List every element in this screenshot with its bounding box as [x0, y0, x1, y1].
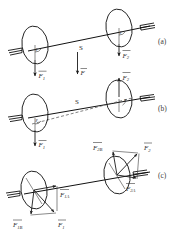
- panel-b-F2-text: F2: [122, 74, 130, 83]
- panel-c-vector-F2A-label: F2A: [125, 184, 136, 194]
- panel-c-right-hatch-icon: [133, 170, 148, 177]
- panel-c-F1-text: F1: [57, 221, 65, 230]
- panel-b: ε ε F1 F2 S (b): [8, 73, 167, 150]
- panel-c-F1B-text: F1B: [12, 221, 23, 230]
- panel-a-separation-label: S: [79, 44, 83, 52]
- panel-c-right-parallelogram-side-1: [113, 151, 139, 153]
- panel-c-vector-F1-label: F1: [57, 220, 66, 230]
- panel-a-F1-text: F1: [38, 72, 46, 81]
- panel-a-axis-line: [28, 26, 150, 51]
- panel-c-F2B-text: F2B: [92, 144, 103, 153]
- panel-c-caption: (c): [158, 171, 167, 180]
- panel-c-F2A-text: F2A: [125, 185, 136, 194]
- panel-c-vector-F2B-arrow: [113, 152, 117, 175]
- panel-c-left-parallelogram-side-2: [31, 213, 57, 215]
- panel-a: ε ε F1 F2 S F: [8, 7, 167, 80]
- panel-a-vector-F2-label: F2: [122, 51, 131, 61]
- panel-b-vector-F2-label: F2: [122, 73, 131, 83]
- figure-canvas: ε ε F1 F2 S F: [0, 0, 180, 241]
- panel-b-vector-F1-label: F1: [38, 141, 47, 150]
- panel-c-F2-text: F2: [143, 144, 151, 153]
- panel-b-dashed-reference: [32, 98, 132, 124]
- panel-a-caption: (a): [158, 37, 167, 46]
- panel-b-F1-text: F1: [38, 141, 46, 150]
- panel-a-F2-text: F2: [122, 52, 130, 61]
- physics-figure: ε ε F1 F2 S F: [0, 0, 180, 241]
- panel-c: F1A F1B F1 F2B: [6, 143, 167, 230]
- panel-c-right-parallelogram-side-2: [137, 154, 139, 180]
- panel-c-vector-F2-label: F2: [143, 143, 152, 153]
- panel-a-F-text: F: [80, 69, 86, 77]
- panel-b-right-hatch-icon: [140, 95, 155, 102]
- panel-c-vector-F1B-arrow: [31, 190, 34, 214]
- panel-c-left-hatch-icon: [6, 191, 20, 198]
- panel-c-vector-F1A-label: F1A: [59, 190, 70, 200]
- panel-b-left-hatch-icon: [8, 115, 22, 122]
- panel-a-center-force-label: F: [80, 69, 88, 78]
- panel-c-F1A-text: F1A: [59, 191, 70, 200]
- panel-a-left-hatch-icon: [8, 48, 22, 55]
- panel-b-caption: (b): [158, 104, 167, 113]
- panel-a-right-hatch-icon: [140, 23, 155, 30]
- panel-c-vector-F1B-label: F1B: [12, 220, 23, 230]
- panel-a-vector-F1-label: F1: [38, 71, 47, 80]
- panel-b-separation-label: S: [75, 98, 79, 106]
- panel-c-vector-F2B-label: F2B: [92, 143, 103, 153]
